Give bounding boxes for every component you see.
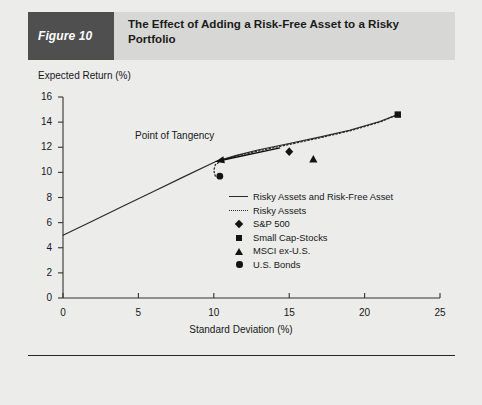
legend-label: MSCI ex-U.S. [250,245,310,256]
y-tick-label-8: 8 [30,193,52,203]
legend-item-s-p-500: S&P 500 [228,217,393,231]
square-glyph [236,235,242,241]
y-tick-label-4: 4 [30,243,52,253]
y-tick-label-14: 14 [30,117,52,127]
marker-small-cap-stocks [395,111,401,117]
legend-key-triangle-icon [228,244,250,258]
y-tick-label-16: 16 [30,92,52,102]
legend-label: Risky Assets and Risk-Free Asset [250,191,393,202]
legend-item-small-cap-stocks: Small Cap-Stocks [228,231,393,245]
legend-key-solid-line-icon [228,190,250,204]
legend-label: Risky Assets [250,205,306,216]
x-tick-label-0: 0 [51,308,75,318]
annotation-arrow [215,148,280,163]
marker-s-p-500 [285,147,293,156]
legend-key-circle-icon [228,258,250,272]
legend-item-risky-assets-and-risk-free-asset: Risky Assets and Risk-Free Asset [228,190,393,204]
y-tick-label-10: 10 [30,167,52,177]
y-tick-label-12: 12 [30,142,52,152]
y-tick-label-2: 2 [30,268,52,278]
marker-msci-ex-u-s- [309,155,317,163]
circle-glyph [236,261,243,268]
bottom-divider [28,355,455,356]
y-tick-label-6: 6 [30,218,52,228]
marker-u-s-bonds [216,173,223,180]
x-tick-label-20: 20 [353,308,377,318]
x-tick-label-25: 25 [428,308,452,318]
legend-key-dotted-line-icon [228,204,250,218]
figure-page: Figure 10 The Effect of Adding a Risk-Fr… [0,0,482,405]
figure-number-label: Figure 10 [28,29,92,43]
diamond-glyph [235,219,243,227]
y-tick-label-0: 0 [30,293,52,303]
legend-item-risky-assets: Risky Assets [228,204,393,218]
x-tick-label-5: 5 [126,308,150,318]
solid-line-glyph [229,196,248,197]
chart-legend: Risky Assets and Risk-Free AssetRisky As… [228,190,393,271]
legend-key-diamond-icon [228,217,250,231]
figure-title: The Effect of Adding a Risk-Free Asset t… [128,17,428,46]
arrow-head [215,156,225,163]
arrow-shaft [224,148,280,160]
legend-key-square-icon [228,231,250,245]
x-tick-label-15: 15 [277,308,301,318]
legend-item-msci-ex-u-s-: MSCI ex-U.S. [228,244,393,258]
legend-label: U.S. Bonds [250,259,300,270]
chart-markers [216,111,401,179]
legend-item-u-s-bonds: U.S. Bonds [228,258,393,272]
chart-plot-area: Expected Return (%) Standard Deviation (… [0,60,482,340]
figure-number-tab: Figure 10 [28,12,114,60]
legend-label: S&P 500 [250,218,290,229]
legend-label: Small Cap-Stocks [250,232,328,243]
triangle-glyph [235,248,243,255]
x-tick-label-10: 10 [202,308,226,318]
dotted-line-glyph [229,210,248,211]
